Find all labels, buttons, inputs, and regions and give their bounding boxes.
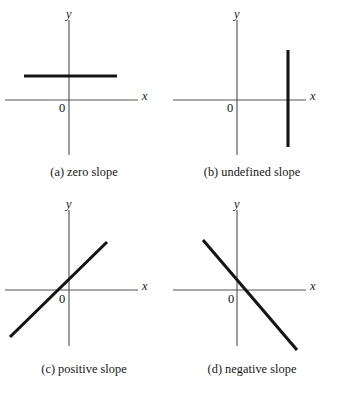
panel-caption-a: (a)zero slope	[0, 166, 168, 178]
panel-zero-slope: x y 0 (a)zero slope	[0, 0, 168, 196]
x-axis-label: x	[142, 90, 148, 103]
panel-undefined-slope: x y 0 (b)undefined slope	[168, 0, 336, 196]
panel-tag-b: (b)	[204, 165, 219, 179]
origin-label: 0	[228, 293, 234, 306]
panel-caption-c: (c)positive slope	[0, 363, 168, 375]
panel-tag-c: (c)	[41, 362, 55, 376]
y-axis-label: y	[66, 8, 72, 21]
x-axis-label: x	[142, 280, 148, 293]
slope-types-figure: x y 0 (a)zero slope x y 0 (b)undefined s…	[0, 0, 337, 393]
panel-tag-a: (a)	[50, 165, 64, 179]
y-axis-label: y	[234, 198, 240, 211]
panel-caption-text-a: zero slope	[67, 165, 118, 179]
panel-tag-d: (d)	[208, 362, 223, 376]
plot-line-negative-slope	[203, 240, 297, 350]
origin-label: 0	[59, 102, 65, 115]
origin-label: 0	[59, 293, 65, 306]
panel-caption-text-d: negative slope	[225, 362, 296, 376]
panel-caption-b: (b)undefined slope	[168, 166, 336, 178]
panel-positive-slope: x y 0 (c)positive slope	[0, 196, 168, 392]
y-axis-label: y	[234, 8, 240, 21]
y-axis-label: y	[66, 198, 72, 211]
panel-caption-text-c: positive slope	[58, 362, 127, 376]
x-axis-label: x	[310, 280, 316, 293]
panel-negative-slope: x y 0 (d)negative slope	[168, 196, 336, 392]
x-axis-label: x	[310, 90, 316, 103]
panel-caption-text-b: undefined slope	[221, 165, 300, 179]
panel-caption-d: (d)negative slope	[168, 363, 336, 375]
origin-label: 0	[227, 102, 233, 115]
